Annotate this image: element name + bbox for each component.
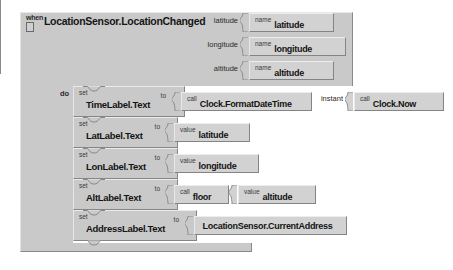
- when-keyword: when: [26, 14, 43, 21]
- set-property-lon-label: LonLabel.Text: [86, 161, 146, 172]
- call-keyword: call: [182, 95, 200, 102]
- socket-icon-floor-arg: [229, 185, 238, 204]
- param-socket-label-longitude: longitude: [188, 40, 238, 49]
- value-name-latitude: latitude: [199, 130, 235, 140]
- event-block-left-spine[interactable]: [20, 85, 73, 252]
- name-keyword: name: [250, 64, 274, 71]
- param-socket-label-latitude: latitude: [196, 16, 238, 25]
- value-block-altitude[interactable]: value altitude: [238, 185, 316, 204]
- statement-notch-icon: [83, 240, 105, 245]
- getter-block-currentaddress[interactable]: LocationSensor.CurrentAddress: [194, 216, 347, 235]
- set-property-time-label: TimeLabel.Text: [86, 99, 150, 110]
- name-keyword: name: [250, 40, 274, 47]
- to-keyword: to: [161, 92, 166, 99]
- call-block-clock-now[interactable]: call Clock.Now: [354, 92, 444, 111]
- to-keyword: to: [174, 216, 179, 223]
- param-name-altitude: altitude: [274, 68, 310, 78]
- param-socket-label-instant: instant: [313, 94, 343, 103]
- to-keyword: to: [155, 123, 160, 130]
- call-block-clock-formatdatetime[interactable]: call Clock.FormatDateTime: [181, 92, 312, 111]
- value-block-longitude[interactable]: value longitude: [174, 154, 259, 173]
- event-block-title: LocationSensor.LocationChanged: [44, 15, 205, 27]
- set-property-lat-label: LatLabel.Text: [86, 130, 143, 141]
- mutator-box-icon[interactable]: [26, 22, 34, 32]
- set-property-alt-label: AltLabel.Text: [86, 192, 141, 203]
- value-keyword: value: [175, 157, 199, 164]
- blocks-canvas[interactable]: when LocationSensor.LocationChanged do l…: [0, 0, 453, 270]
- call-keyword: call: [175, 188, 193, 195]
- value-name-longitude: longitude: [199, 161, 243, 171]
- name-keyword: name: [250, 16, 274, 23]
- event-block-right-edge: [0, 0, 1, 74]
- getter-name-locationsensor-currentaddress: LocationSensor.CurrentAddress: [203, 221, 339, 231]
- to-keyword: to: [155, 185, 160, 192]
- param-name-longitude: longitude: [274, 44, 318, 54]
- call-target-floor: floor: [193, 192, 218, 202]
- socket-icon-instant: [345, 92, 354, 111]
- call-target-clock-formatdatetime: Clock.FormatDateTime: [200, 99, 298, 109]
- statement-notch-icon: [83, 86, 105, 91]
- name-block-latitude[interactable]: name latitude: [249, 13, 334, 32]
- name-block-altitude[interactable]: name altitude: [249, 61, 334, 80]
- param-socket-label-altitude: altitude: [196, 64, 238, 73]
- value-keyword: value: [239, 188, 263, 195]
- call-block-floor[interactable]: call floor: [174, 185, 229, 204]
- call-keyword: call: [355, 95, 373, 102]
- to-keyword: to: [155, 154, 160, 161]
- value-keyword: value: [175, 126, 199, 133]
- statement-notch-icon: [83, 210, 105, 215]
- name-block-longitude[interactable]: name longitude: [249, 37, 346, 56]
- value-block-latitude[interactable]: value latitude: [174, 123, 250, 142]
- set-property-address-label: AddressLabel.Text: [86, 223, 165, 234]
- statement-notch-icon: [83, 117, 105, 122]
- call-target-clock-now: Clock.Now: [373, 99, 422, 109]
- event-block-footer[interactable]: [20, 243, 252, 252]
- statement-notch-icon: [83, 148, 105, 153]
- param-name-latitude: latitude: [274, 20, 310, 30]
- do-keyword: do: [60, 89, 69, 98]
- statement-notch-icon: [83, 179, 105, 184]
- value-name-altitude: altitude: [263, 192, 299, 202]
